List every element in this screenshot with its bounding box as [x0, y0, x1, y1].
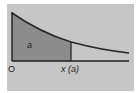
x-a-label: x (a): [60, 64, 79, 74]
origin-label: O: [8, 64, 15, 74]
density-diagram: a O x (a): [0, 0, 137, 93]
area-label: a: [27, 40, 32, 50]
shaded-area-a: [12, 13, 71, 61]
